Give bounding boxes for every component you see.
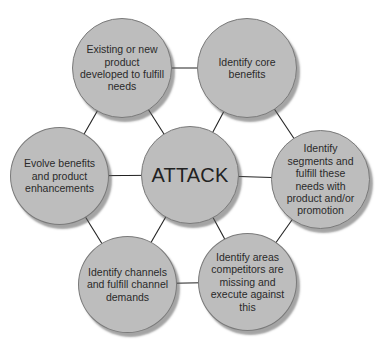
- node-label: Identify channels and fulfill channel de…: [79, 266, 176, 303]
- node-left: Evolve benefits and product enhancements: [10, 127, 109, 225]
- node-bottom-left: Identify channels and fulfill channel de…: [78, 236, 177, 333]
- node-center-attack: ATTACK: [141, 126, 239, 224]
- node-label: Existing or new product developed to ful…: [73, 43, 171, 93]
- node-bottom-right: Identify areas competitors are missing a…: [198, 233, 297, 331]
- node-top-left: Existing or new product developed to ful…: [72, 18, 172, 118]
- node-label: Identify segments and fulfill these need…: [272, 142, 369, 216]
- node-label: Identify core benefits: [198, 56, 296, 81]
- node-label: Identify areas competitors are missing a…: [199, 251, 296, 313]
- node-top-right: Identify core benefits: [197, 18, 297, 118]
- node-label: Evolve benefits and product enhancements: [11, 157, 108, 194]
- node-right: Identify segments and fulfill these need…: [271, 130, 370, 229]
- center-label: ATTACK: [145, 164, 234, 186]
- attack-diagram: Existing or new product developed to ful…: [0, 0, 383, 344]
